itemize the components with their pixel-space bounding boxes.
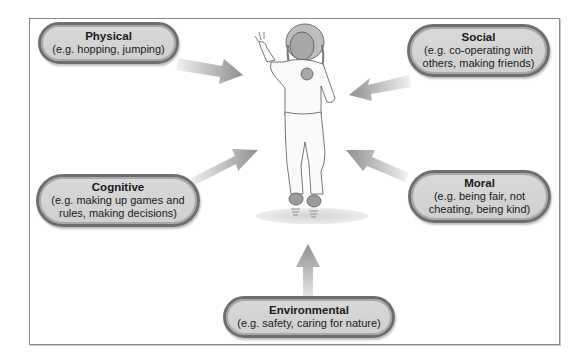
node-social-desc: (e.g. co-operating with others, making f…	[420, 44, 538, 70]
node-social: Social (e.g. co-operating with others, m…	[407, 24, 550, 77]
node-environmental-title: Environmental	[269, 304, 349, 317]
node-moral-desc: (e.g. being fair, not cheating, being ki…	[420, 190, 540, 216]
node-social-title: Social	[462, 31, 496, 44]
arrow-moral-icon	[346, 150, 409, 182]
node-moral-title: Moral	[464, 177, 495, 190]
node-environmental: Environmental (e.g. safety, caring for n…	[223, 296, 395, 338]
node-cognitive-desc: (e.g. making up games and rules, making …	[43, 194, 193, 220]
node-moral: Moral (e.g. being fair, not cheating, be…	[408, 170, 551, 223]
arrow-social-icon	[349, 75, 411, 101]
node-physical-title: Physical	[85, 30, 132, 43]
arrow-cognitive-icon	[191, 149, 258, 185]
child-illustration	[255, 24, 368, 224]
node-physical-desc: (e.g. hopping, jumping)	[52, 43, 165, 56]
node-cognitive: Cognitive (e.g. making up games and rule…	[36, 174, 200, 227]
node-cognitive-title: Cognitive	[92, 181, 144, 194]
node-environmental-desc: (e.g. safety, caring for nature)	[237, 317, 380, 330]
node-physical: Physical (e.g. hopping, jumping)	[38, 22, 179, 64]
arrow-physical-icon	[176, 58, 243, 84]
arrow-environmental-icon	[296, 244, 320, 297]
